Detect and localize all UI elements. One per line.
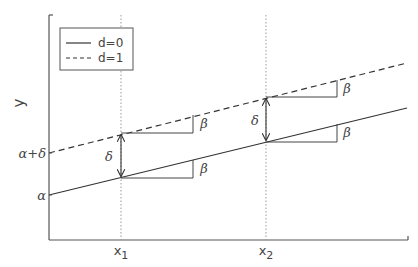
ytick-label-alpha: α [37, 188, 46, 203]
delta-label-x2: δ [251, 113, 259, 128]
xtick-label-x2: x2 [259, 243, 274, 262]
line-d1 [49, 63, 407, 153]
regression-diagram: δ δ β β β β α+δ α y x1 x2 d=0 d=1 [0, 0, 418, 267]
slope-triangle-x2-d1 [266, 80, 337, 97]
xtick-label-x1: x1 [114, 243, 129, 262]
y-axis-label: y [10, 98, 28, 107]
legend: d=0 d=1 [60, 28, 133, 70]
delta-label-x1: δ [105, 149, 113, 164]
beta-label-4: β [342, 125, 351, 140]
ytick-label-alpha-delta: α+δ [19, 146, 47, 161]
slope-triangle-x1-d1 [121, 115, 193, 133]
beta-label-1: β [199, 116, 208, 131]
beta-label-2: β [199, 161, 208, 176]
beta-label-3: β [342, 81, 351, 96]
legend-label-d1: d=1 [98, 51, 123, 65]
line-d0 [49, 108, 407, 195]
legend-label-d0: d=0 [98, 36, 123, 50]
